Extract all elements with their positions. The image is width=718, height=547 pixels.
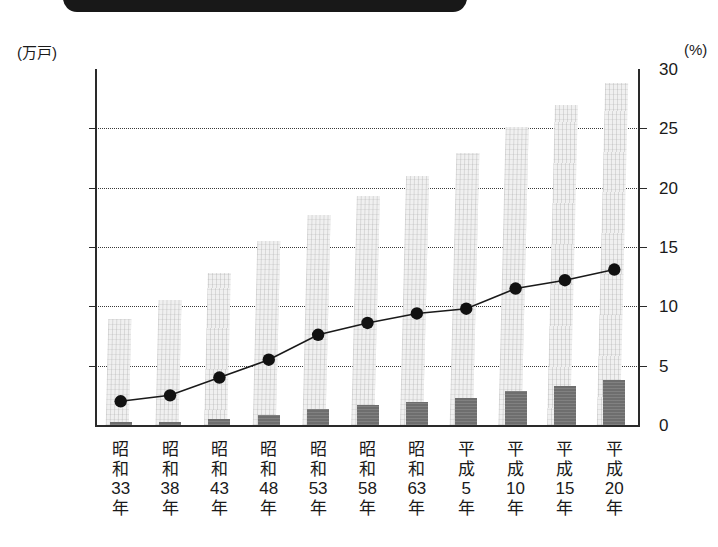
x-axis-label-char: 昭 xyxy=(252,440,286,460)
right-axis-tick-label: 10 xyxy=(659,298,678,315)
vacancy-rate-marker xyxy=(411,307,423,319)
x-axis-label-char: 年 xyxy=(153,499,187,519)
x-axis-label-char: 43 xyxy=(202,479,236,499)
x-axis-label-char: 15 xyxy=(548,479,582,499)
x-axis-label-char: 年 xyxy=(351,499,385,519)
x-axis-label-char: 年 xyxy=(597,499,631,519)
x-axis-category-label: 昭和43年 xyxy=(202,440,236,518)
x-axis-label-char: 和 xyxy=(252,460,286,480)
x-axis-label-char: 成 xyxy=(597,460,631,480)
x-axis-label-char: 年 xyxy=(449,499,483,519)
x-axis-category-label: 昭和33年 xyxy=(104,440,138,518)
x-axis-category-label: 昭和58年 xyxy=(351,440,385,518)
right-axis-unit-label: (%) xyxy=(684,41,707,58)
x-axis-label-char: 20 xyxy=(597,479,631,499)
x-axis-label-char: 昭 xyxy=(400,440,434,460)
right-axis-tick-label: 0 xyxy=(659,417,668,434)
x-axis-label-char: 昭 xyxy=(301,440,335,460)
vacancy-rate-marker xyxy=(164,389,176,401)
vacancy-rate-marker xyxy=(361,317,373,329)
right-axis-tick xyxy=(638,306,647,307)
vacancy-rate-marker xyxy=(608,263,620,275)
right-axis-tick xyxy=(638,247,647,248)
x-axis-label-char: 10 xyxy=(499,479,533,499)
x-axis-label-char: 年 xyxy=(252,499,286,519)
x-axis-label-char: 年 xyxy=(202,499,236,519)
x-axis-label-char: 和 xyxy=(153,460,187,480)
x-axis-label-char: 年 xyxy=(301,499,335,519)
left-axis-unit-label: (万戸) xyxy=(17,41,57,62)
vacancy-rate-marker xyxy=(114,395,126,407)
x-axis-category-label: 平成20年 xyxy=(597,440,631,518)
right-axis-tick-label: 5 xyxy=(659,358,668,375)
right-axis-tick-label: 20 xyxy=(659,180,678,197)
x-axis-label-char: 成 xyxy=(499,460,533,480)
vacancy-rate-marker xyxy=(312,329,324,341)
x-axis-label-char: 和 xyxy=(104,460,138,480)
x-axis-label-char: 昭 xyxy=(104,440,138,460)
x-axis-label-char: 平 xyxy=(499,440,533,460)
x-axis-label-char: 平 xyxy=(449,440,483,460)
x-axis-label-char: 和 xyxy=(301,460,335,480)
x-axis-label-char: 53 xyxy=(301,479,335,499)
x-axis-label-char: 成 xyxy=(449,460,483,480)
right-axis-tick-label: 30 xyxy=(659,61,678,78)
x-axis-category-label: 平成5年 xyxy=(449,440,483,518)
x-axis-label-char: 昭 xyxy=(202,440,236,460)
x-axis-category-label: 昭和38年 xyxy=(153,440,187,518)
x-axis-label-char: 5 xyxy=(449,479,483,499)
x-axis-label-char: 昭 xyxy=(153,440,187,460)
vacancy-rate-marker xyxy=(559,274,571,286)
right-axis-tick xyxy=(638,188,647,189)
x-axis-label-char: 年 xyxy=(400,499,434,519)
x-axis-label-char: 63 xyxy=(400,479,434,499)
vacancy-rate-marker xyxy=(213,371,225,383)
x-axis-category-label: 平成15年 xyxy=(548,440,582,518)
vacancy-rate-marker xyxy=(460,303,472,315)
x-axis-label-char: 昭 xyxy=(351,440,385,460)
plot-area xyxy=(96,69,639,425)
x-axis-label-char: 和 xyxy=(400,460,434,480)
x-axis-category-label: 昭和53年 xyxy=(301,440,335,518)
x-axis-category-label: 昭和63年 xyxy=(400,440,434,518)
x-axis-label-char: 平 xyxy=(597,440,631,460)
right-axis-tick-label: 25 xyxy=(659,120,678,137)
right-axis-tick xyxy=(638,366,647,367)
x-axis-label-char: 年 xyxy=(548,499,582,519)
x-axis-label-char: 年 xyxy=(104,499,138,519)
x-axis-label-char: 年 xyxy=(499,499,533,519)
right-axis-tick-label: 15 xyxy=(659,239,678,256)
x-axis-category-label: 平成10年 xyxy=(499,440,533,518)
x-axis-category-label: 昭和48年 xyxy=(252,440,286,518)
right-axis-tick xyxy=(638,128,647,129)
vacancy-rate-marker xyxy=(509,282,521,294)
vacancy-rate-marker xyxy=(263,354,275,366)
x-axis-label-char: 和 xyxy=(351,460,385,480)
x-axis-label-char: 38 xyxy=(153,479,187,499)
housing-vacancy-chart: (万戸) (%) 6000500040003000200010000 30252… xyxy=(0,0,718,547)
x-axis-label-char: 和 xyxy=(202,460,236,480)
vacancy-rate-line xyxy=(121,270,615,402)
x-axis-label-char: 成 xyxy=(548,460,582,480)
x-axis-label-char: 58 xyxy=(351,479,385,499)
x-axis-label-char: 33 xyxy=(104,479,138,499)
vacancy-rate-line-group xyxy=(96,69,639,425)
x-axis-label-char: 平 xyxy=(548,440,582,460)
x-axis-label-char: 48 xyxy=(252,479,286,499)
x-axis-line xyxy=(95,425,640,427)
